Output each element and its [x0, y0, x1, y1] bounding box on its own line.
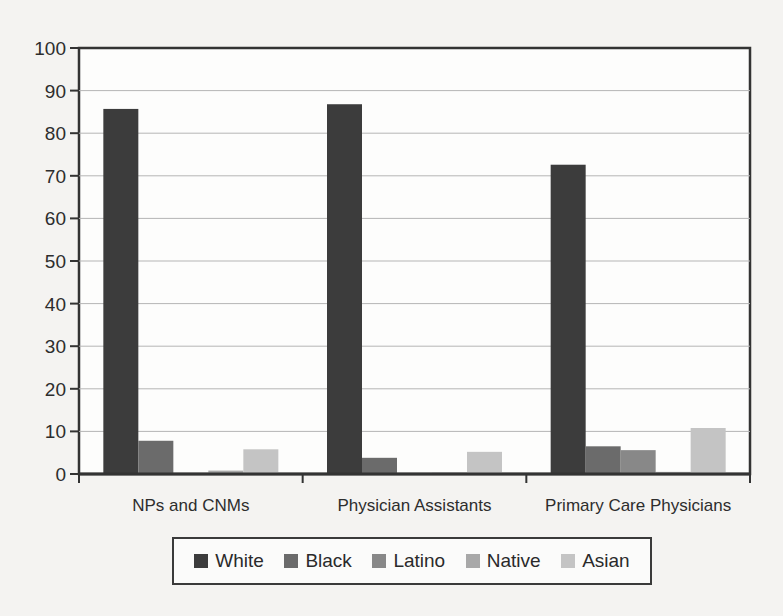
- bar-asian-0: [243, 449, 278, 474]
- legend-swatch-white: [194, 554, 208, 568]
- bar-asian-2: [691, 428, 726, 474]
- bar-latino-2: [621, 450, 656, 474]
- bar-asian-1: [467, 452, 502, 474]
- y-tick-label: 30: [45, 336, 66, 357]
- x-category-label: Primary Care Physicians: [545, 496, 731, 515]
- bar-chart: 0102030405060708090100 NPs and CNMsPhysi…: [0, 0, 783, 616]
- y-axis: 0102030405060708090100: [34, 38, 79, 485]
- y-tick-label: 80: [45, 123, 66, 144]
- legend-item-white: White: [194, 550, 264, 572]
- y-tick-label: 70: [45, 166, 66, 187]
- legend-item-black: Black: [284, 550, 351, 572]
- legend-label-native: Native: [487, 550, 541, 572]
- y-tick-label: 40: [45, 294, 66, 315]
- y-tick-label: 0: [55, 464, 66, 485]
- y-tick-label: 100: [34, 38, 66, 59]
- bar-white-2: [551, 165, 586, 474]
- legend-swatch-asian: [561, 554, 575, 568]
- y-tick-label: 90: [45, 81, 66, 102]
- legend-swatch-latino: [372, 554, 386, 568]
- legend-item-asian: Asian: [561, 550, 630, 572]
- legend-item-latino: Latino: [372, 550, 445, 572]
- legend-item-native: Native: [466, 550, 541, 572]
- y-tick-label: 10: [45, 421, 66, 442]
- x-category-label: NPs and CNMs: [132, 496, 249, 515]
- bar-black-2: [586, 446, 621, 474]
- x-axis: NPs and CNMsPhysician AssistantsPrimary …: [79, 474, 750, 515]
- y-tick-label: 20: [45, 379, 66, 400]
- legend-label-asian: Asian: [582, 550, 630, 572]
- y-tick-label: 60: [45, 208, 66, 229]
- x-category-label: Physician Assistants: [337, 496, 491, 515]
- legend-label-white: White: [215, 550, 264, 572]
- bar-white-0: [103, 109, 138, 474]
- bar-black-1: [362, 458, 397, 474]
- y-tick-label: 50: [45, 251, 66, 272]
- legend-swatch-black: [284, 554, 298, 568]
- legend-label-black: Black: [305, 550, 351, 572]
- legend-label-latino: Latino: [393, 550, 445, 572]
- legend-swatch-native: [466, 554, 480, 568]
- bar-black-0: [138, 441, 173, 474]
- bar-white-1: [327, 104, 362, 474]
- legend: White Black Latino Native Asian: [172, 537, 652, 585]
